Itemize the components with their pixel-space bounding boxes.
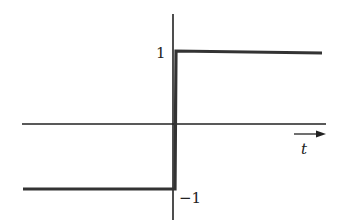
- step-function-plot: 1 −1 t: [0, 0, 345, 223]
- t-direction-arrow: [294, 131, 326, 138]
- y-label-pos-1: 1: [156, 44, 166, 62]
- x-axis-label-t: t: [301, 140, 308, 158]
- y-label-neg-1: −1: [179, 189, 201, 207]
